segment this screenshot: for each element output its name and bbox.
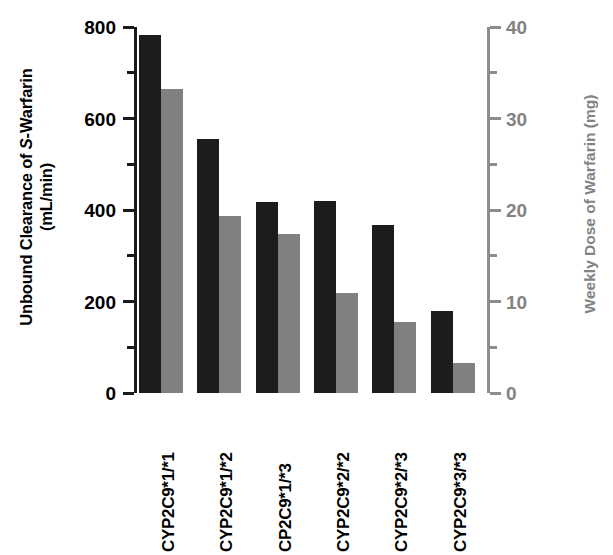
x-tick-label: CYP2C9*1/*1 (158, 382, 180, 552)
left-tick-label: 400 (36, 201, 116, 220)
right-tick-major (490, 300, 501, 303)
left-tick-label: 200 (36, 292, 116, 311)
left-axis-title-post: -Warfarin (17, 68, 35, 138)
left-tick-major (123, 392, 134, 395)
right-tick-major (490, 209, 501, 212)
left-axis-title-pre: Unbound Clearance of (17, 149, 35, 325)
right-tick-major (490, 117, 501, 120)
left-axis-title-italic-s: S (17, 138, 35, 149)
bar-clearance (372, 225, 394, 393)
right-tick-label: 40 (506, 18, 586, 37)
bar-clearance (431, 311, 453, 393)
bar-group (314, 27, 358, 393)
bar-group-container (137, 27, 487, 393)
right-tick-major (490, 392, 501, 395)
bar-weekly-dose (161, 89, 183, 393)
x-tick-label: CYP2C9*2/*3 (391, 382, 413, 552)
right-tick-major (490, 26, 501, 29)
left-tick-label: 600 (36, 109, 116, 128)
bar-group (197, 27, 241, 393)
left-tick-major (123, 300, 134, 303)
left-tick-major (123, 26, 134, 29)
bar-clearance (314, 201, 336, 393)
x-tick-label: CYP2C9*2/*2 (333, 382, 355, 552)
left-tick-minor (127, 346, 134, 349)
right-tick-minor (490, 254, 497, 257)
bar-weekly-dose (336, 293, 358, 393)
warfarin-clearance-dose-chart: Unbound Clearance of S-Warfarin (mL/min)… (0, 0, 613, 555)
left-axis-title: Unbound Clearance of S-Warfarin (mL/min) (14, 2, 58, 392)
left-tick-major (123, 117, 134, 120)
left-tick-minor (127, 71, 134, 74)
right-tick-minor (490, 346, 497, 349)
bar-group (372, 27, 416, 393)
left-tick-minor (127, 254, 134, 257)
left-axis-title-units: (mL/min) (36, 163, 56, 231)
right-tick-minor (490, 71, 497, 74)
right-tick-label: 20 (506, 201, 586, 220)
right-tick-label: 30 (506, 109, 586, 128)
left-tick-major (123, 209, 134, 212)
right-tick-minor (490, 163, 497, 166)
left-tick-minor (127, 163, 134, 166)
bar-clearance (139, 35, 161, 393)
left-tick-label: 0 (36, 384, 116, 403)
bar-group (256, 27, 300, 393)
right-tick-label: 0 (506, 384, 586, 403)
bar-group (139, 27, 183, 393)
x-tick-label: CYP2C9*3/*3 (450, 382, 472, 552)
bar-weekly-dose (219, 216, 241, 393)
bar-group (431, 27, 475, 393)
bar-clearance (197, 139, 219, 393)
x-axis-tick-labels: CYP2C9*1/*1CYP2C9*1/*2CP2C9*1/*3CYP2C9*2… (137, 392, 487, 555)
x-tick-label: CP2C9*1/*3 (275, 382, 297, 552)
bar-clearance (256, 202, 278, 393)
bar-weekly-dose (278, 234, 300, 393)
left-tick-label: 800 (36, 18, 116, 37)
plot-area: 0200400600800 010203040 (137, 27, 487, 392)
right-tick-label: 10 (506, 292, 586, 311)
x-tick-label: CYP2C9*1/*2 (216, 382, 238, 552)
